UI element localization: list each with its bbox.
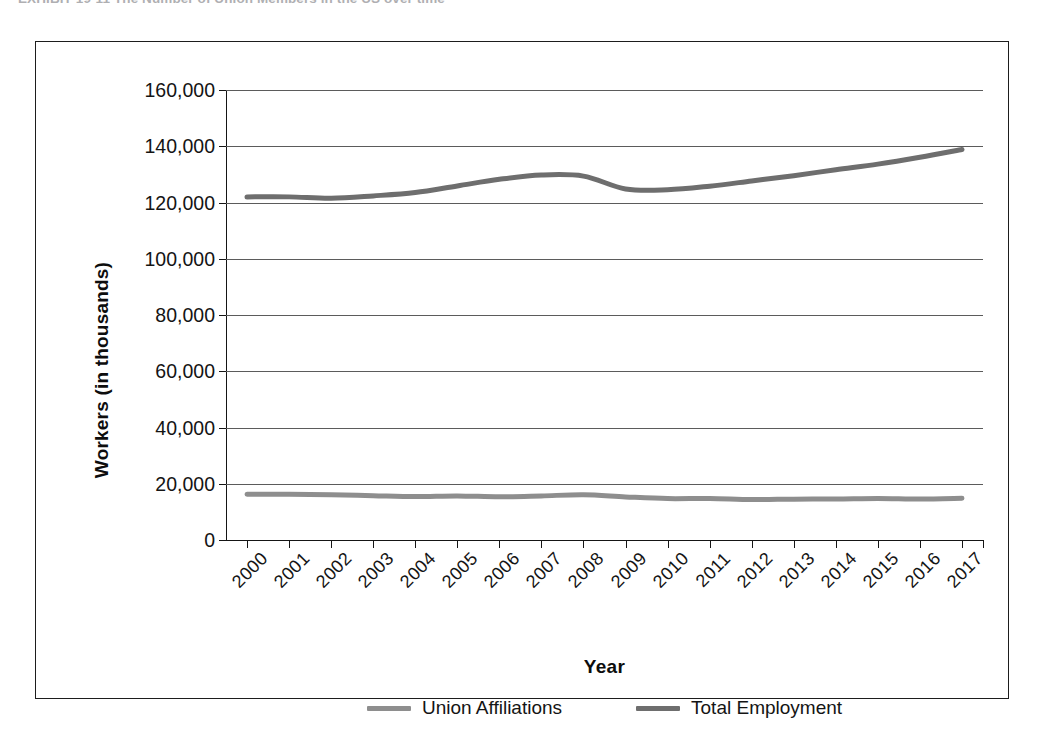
x-tick-label: 2010 (649, 548, 693, 592)
x-tick-label: 2001 (270, 548, 314, 592)
chart-frame: Workers (in thousands) 020,00040,00060,0… (35, 41, 1009, 699)
y-axis-title: Workers (in thousands) (91, 262, 113, 478)
x-tick-label: 2000 (228, 548, 272, 592)
legend-entry[interactable]: Union Affiliations (367, 697, 562, 719)
x-tick-label: 2014 (817, 548, 861, 592)
series-line (247, 149, 962, 198)
x-tick-label: 2009 (607, 548, 651, 592)
legend-label: Union Affiliations (422, 697, 562, 719)
chart-legend: Union AffiliationsTotal Employment (226, 697, 983, 719)
x-axis-line (226, 540, 983, 541)
x-tick-mark (626, 540, 627, 548)
y-tick-mark (219, 540, 226, 541)
x-tick-label: 2016 (901, 548, 945, 592)
x-tick-mark (457, 540, 458, 548)
x-tick-mark-end (983, 540, 984, 548)
x-tick-label: 2004 (396, 548, 440, 592)
legend-entry[interactable]: Total Employment (636, 697, 842, 719)
series-lines (226, 90, 983, 540)
y-tick-mark (219, 371, 226, 372)
x-tick-label: 2002 (312, 548, 356, 592)
x-tick-mark (289, 540, 290, 548)
x-tick-mark (794, 540, 795, 548)
x-tick-mark (331, 540, 332, 548)
y-tick-mark (219, 484, 226, 485)
x-tick-mark (541, 540, 542, 548)
x-tick-label: 2015 (859, 548, 903, 592)
y-tick-label: 20,000 (155, 472, 215, 495)
x-tick-mark (499, 540, 500, 548)
y-tick-mark (219, 315, 226, 316)
series-line (247, 494, 962, 499)
y-tick-label: 100,000 (145, 247, 216, 270)
x-tick-mark (920, 540, 921, 548)
x-tick-label: 2011 (691, 548, 734, 591)
x-tick-label: 2005 (438, 548, 482, 592)
y-tick-mark (219, 90, 226, 91)
x-tick-mark (836, 540, 837, 548)
y-tick-mark (219, 203, 226, 204)
x-tick-mark (668, 540, 669, 548)
legend-label: Total Employment (691, 697, 842, 719)
legend-swatch (367, 706, 411, 711)
x-tick-label: 2003 (354, 548, 398, 592)
x-tick-label: 2006 (480, 548, 524, 592)
x-tick-mark (962, 540, 963, 548)
x-tick-label: 2017 (943, 548, 987, 592)
y-tick-label: 160,000 (145, 79, 216, 102)
y-tick-label: 80,000 (155, 304, 215, 327)
x-axis-title: Year (226, 656, 983, 678)
y-tick-label: 40,000 (155, 416, 215, 439)
x-tick-mark (710, 540, 711, 548)
y-tick-label: 140,000 (145, 135, 216, 158)
y-tick-label: 120,000 (145, 191, 216, 214)
x-tick-label: 2007 (522, 548, 566, 592)
x-tick-label: 2012 (733, 548, 777, 592)
x-tick-mark (373, 540, 374, 548)
y-tick-mark (219, 146, 226, 147)
x-tick-mark (247, 540, 248, 548)
y-tick-mark (219, 428, 226, 429)
x-tick-label: 2013 (775, 548, 819, 592)
y-tick-mark (219, 259, 226, 260)
exhibit-caption: EXHIBIT 19-11 The Number of Union Member… (18, 0, 718, 9)
x-tick-mark (583, 540, 584, 548)
x-tick-label: 2008 (565, 548, 609, 592)
y-tick-label: 0 (204, 529, 215, 552)
x-tick-mark (415, 540, 416, 548)
x-tick-mark (878, 540, 879, 548)
x-tick-mark (752, 540, 753, 548)
legend-swatch (636, 706, 680, 711)
plot-area: 020,00040,00060,00080,000100,000120,0001… (226, 90, 983, 540)
y-tick-label: 60,000 (155, 360, 215, 383)
